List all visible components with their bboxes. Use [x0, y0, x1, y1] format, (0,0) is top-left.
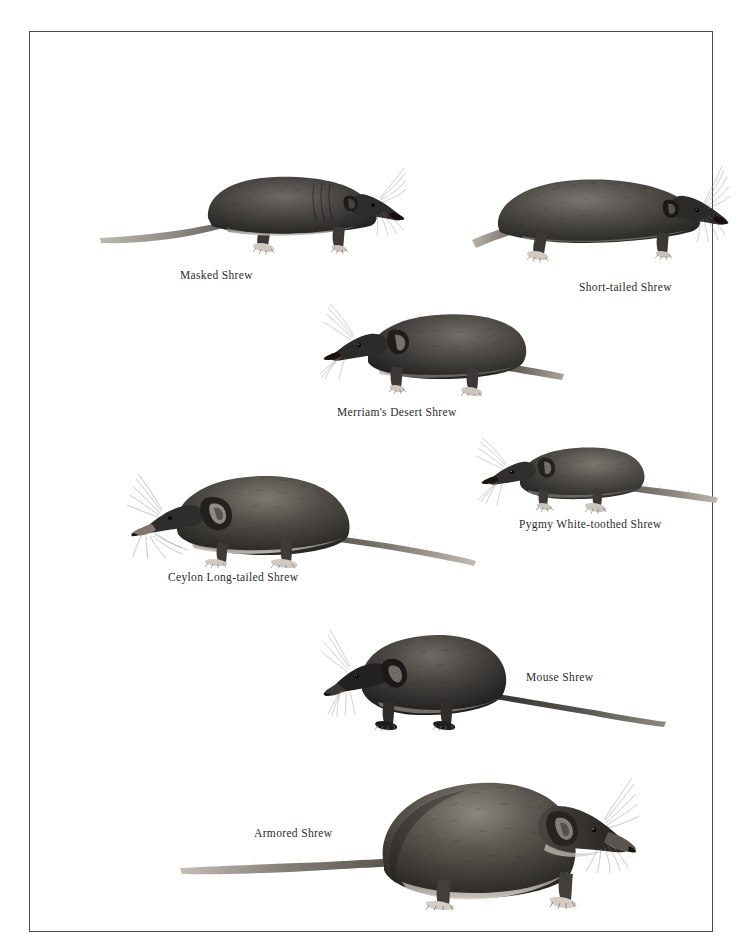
plate-border-frame: Masked Shrew: [29, 31, 713, 932]
caption-pygmy-white-toothed-shrew: Pygmy White-toothed Shrew: [519, 519, 662, 531]
caption-ceylon-long-tailed-shrew: Ceylon Long-tailed Shrew: [168, 572, 298, 584]
figure-masked-shrew: [86, 160, 406, 260]
figure-merriams-desert-shrew: [312, 300, 574, 396]
caption-mouse-shrew: Mouse Shrew: [526, 672, 593, 684]
figure-mouse-shrew: [322, 624, 672, 734]
caption-short-tailed-shrew: Short-tailed Shrew: [579, 282, 672, 294]
figure-pygmy-white-toothed-shrew: [472, 436, 722, 514]
illustration-plate: Masked Shrew: [0, 0, 742, 942]
figure-ceylon-long-tailed-shrew: [122, 460, 482, 568]
figure-short-tailed-shrew: [462, 164, 732, 264]
caption-armored-shrew: Armored Shrew: [254, 828, 332, 840]
figure-armored-shrew: [170, 770, 640, 910]
caption-masked-shrew: Masked Shrew: [180, 270, 253, 282]
caption-merriams-desert-shrew: Merriam's Desert Shrew: [337, 407, 457, 419]
